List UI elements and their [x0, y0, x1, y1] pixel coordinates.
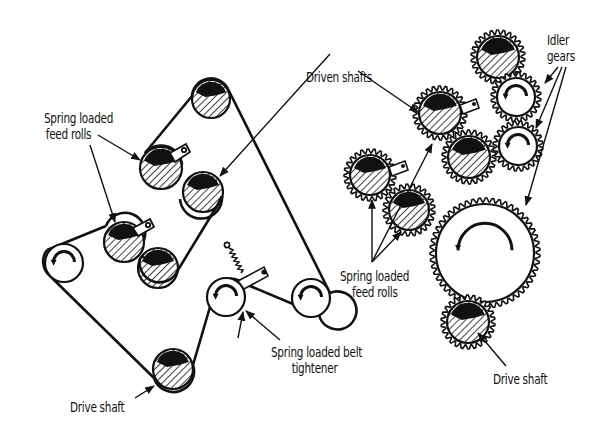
label-line: Spring loaded belt: [271, 344, 362, 360]
label-line: gears: [547, 48, 575, 64]
belt-and-gear-drive-diagram: Spring loaded feed rolls Driven shafts I…: [0, 0, 614, 445]
label-line: feed rolls: [340, 284, 409, 300]
roller-upper-driven: [183, 172, 223, 212]
label-line: Idler: [547, 32, 575, 48]
label-driven-shafts: Driven shafts: [306, 69, 372, 85]
label-line: feed rolls: [44, 126, 113, 142]
label-drive-shaft-right: Drive shaft: [493, 371, 547, 387]
gear-train: [344, 30, 543, 349]
gear-middle-gear: [442, 130, 496, 184]
label-drive-shaft-left: Drive shaft: [70, 399, 124, 415]
roller-drive-shaft: [153, 349, 193, 389]
roller-left-idler: [45, 244, 83, 282]
roller-top-driven: [192, 80, 230, 118]
gear-feed-right: [383, 184, 435, 236]
label-spring-loaded-belt-tightener: Spring loaded belt tightener: [271, 344, 362, 376]
label-spring-loaded-feed-rolls-right: Spring loaded feed rolls: [340, 268, 409, 300]
gear-big-gear: [430, 198, 540, 308]
label-spring-loaded-feed-rolls-left: Spring loaded feed rolls: [44, 110, 113, 142]
roller-right-idler: [292, 279, 330, 317]
label-line: Spring loaded: [340, 268, 409, 284]
label-idler-gears: Idler gears: [547, 32, 575, 64]
label-line: Spring loaded: [44, 110, 113, 126]
gear-idler-2: [493, 121, 543, 171]
roller-lower-driven: [138, 248, 178, 288]
label-line: tightener: [271, 360, 362, 376]
